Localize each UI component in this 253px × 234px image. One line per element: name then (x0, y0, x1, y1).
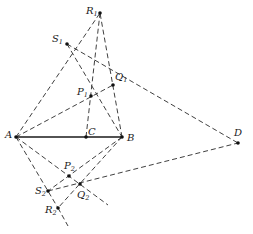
point-a (14, 135, 18, 139)
point-s2 (46, 189, 50, 193)
point-d (236, 141, 240, 145)
dashed-line (16, 85, 113, 137)
point-labels: R1S1Q1P1ACBDP2Q2S2R2 (4, 5, 242, 217)
dashed-line (58, 208, 68, 226)
point-r2 (56, 206, 60, 210)
point-q1 (111, 83, 115, 87)
label-q2: Q2 (77, 189, 89, 202)
label-r2: R2 (44, 204, 57, 217)
label-a: A (4, 129, 12, 140)
point-r1 (98, 11, 102, 15)
dashed-line (16, 13, 100, 137)
label-s2: S2 (35, 185, 46, 198)
label-s1: S1 (52, 33, 63, 46)
dashed-construction-lines (16, 13, 238, 226)
label-p2: P2 (63, 160, 75, 173)
point-p2 (67, 174, 71, 178)
dashed-line (48, 137, 122, 191)
label-q1: Q1 (115, 71, 127, 84)
label-d: D (233, 127, 242, 138)
dashed-line (48, 143, 238, 191)
label-r1: R1 (85, 5, 98, 18)
point-q2 (78, 182, 82, 186)
dashed-line (16, 137, 58, 208)
label-c: C (88, 126, 96, 137)
label-p1: P1 (76, 86, 88, 99)
dashed-line (67, 44, 122, 137)
point-b (120, 135, 124, 139)
geometry-diagram: R1S1Q1P1ACBDP2Q2S2R2 (0, 0, 253, 234)
dashed-line (58, 137, 122, 208)
label-b: B (126, 132, 134, 143)
point-p1 (89, 94, 93, 98)
dashed-line (16, 137, 108, 205)
point-s1 (65, 42, 69, 46)
dashed-line (86, 13, 100, 137)
points (14, 11, 240, 210)
